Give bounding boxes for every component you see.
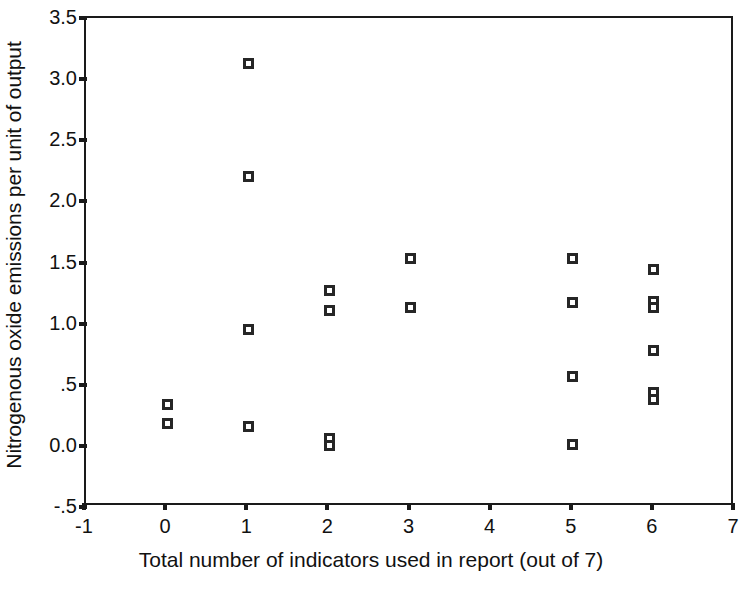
y-tick-label: 0.0 bbox=[49, 434, 77, 457]
y-tick-label: 3.0 bbox=[49, 67, 77, 90]
y-tick-label: 2.5 bbox=[49, 128, 77, 151]
y-tick-label: -.5 bbox=[54, 495, 77, 518]
x-tick-label: 1 bbox=[241, 515, 252, 538]
data-point bbox=[567, 439, 578, 450]
x-tick-label: 0 bbox=[160, 515, 171, 538]
y-tick-mark bbox=[79, 444, 87, 448]
x-tick-mark bbox=[325, 503, 329, 510]
x-tick-label: 7 bbox=[727, 515, 738, 538]
x-tick-mark bbox=[163, 503, 167, 510]
x-tick-label: 2 bbox=[322, 515, 333, 538]
x-tick-mark bbox=[82, 503, 86, 510]
data-point bbox=[243, 421, 254, 432]
data-point bbox=[162, 418, 173, 429]
y-tick-label: 1.5 bbox=[49, 251, 77, 274]
data-point bbox=[243, 324, 254, 335]
y-tick-mark bbox=[79, 261, 87, 265]
data-point bbox=[648, 302, 659, 313]
data-point bbox=[162, 399, 173, 410]
y-tick-label: .5 bbox=[60, 373, 77, 396]
data-point bbox=[243, 58, 254, 69]
data-point bbox=[567, 371, 578, 382]
y-tick-label: 3.5 bbox=[49, 6, 77, 29]
y-tick-label: 1.0 bbox=[49, 312, 77, 335]
x-tick-label: 5 bbox=[565, 515, 576, 538]
plot-area: -.50.0.51.01.52.02.53.03.5 bbox=[84, 16, 733, 505]
y-tick-mark bbox=[79, 77, 87, 81]
y-axis-title-text: Nitrogenous oxide emissions per unit of … bbox=[2, 41, 26, 468]
x-tick-label: 3 bbox=[403, 515, 414, 538]
x-tick-label: -1 bbox=[75, 515, 93, 538]
x-tick-mark bbox=[244, 503, 248, 510]
data-point bbox=[648, 264, 659, 275]
y-axis-title: Nitrogenous oxide emissions per unit of … bbox=[0, 0, 28, 510]
data-point bbox=[243, 171, 254, 182]
x-axis-title: Total number of indicators used in repor… bbox=[0, 548, 742, 572]
y-tick-label: 2.0 bbox=[49, 189, 77, 212]
x-tick-label: 4 bbox=[484, 515, 495, 538]
y-tick-mark bbox=[79, 138, 87, 142]
data-point bbox=[567, 297, 578, 308]
y-tick-mark bbox=[79, 383, 87, 387]
data-point bbox=[648, 345, 659, 356]
scatter-plot-figure: Nitrogenous oxide emissions per unit of … bbox=[0, 0, 742, 596]
data-point bbox=[405, 253, 416, 264]
y-tick-mark bbox=[79, 322, 87, 326]
x-tick-mark bbox=[650, 503, 654, 510]
y-tick-mark bbox=[79, 199, 87, 203]
x-tick-mark bbox=[407, 503, 411, 510]
data-point bbox=[324, 440, 335, 451]
data-point bbox=[405, 302, 416, 313]
y-tick-mark bbox=[79, 16, 87, 20]
data-point bbox=[648, 394, 659, 405]
x-tick-mark bbox=[731, 503, 735, 510]
data-point bbox=[324, 285, 335, 296]
x-tick-mark bbox=[569, 503, 573, 510]
data-point bbox=[567, 253, 578, 264]
data-point bbox=[324, 305, 335, 316]
x-tick-mark bbox=[488, 503, 492, 510]
x-tick-label: 6 bbox=[646, 515, 657, 538]
